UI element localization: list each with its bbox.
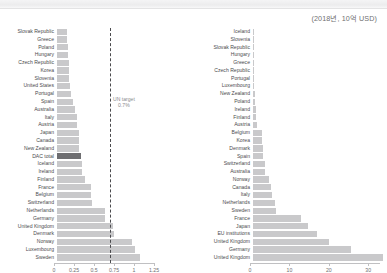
bar <box>253 192 272 198</box>
bar <box>253 137 262 143</box>
bar <box>253 67 254 73</box>
bar-category-label: Australia <box>192 168 253 175</box>
bar-track <box>253 75 387 82</box>
bar-track <box>57 59 193 66</box>
bar <box>253 176 270 182</box>
bar <box>253 231 318 237</box>
bar-row: United Kingdom <box>192 254 387 261</box>
bar-category-label: United Kingdom <box>192 238 253 245</box>
bar-track <box>57 114 193 121</box>
bar-track <box>253 90 387 97</box>
bar-track <box>253 168 387 175</box>
bar-category-label: Germany <box>0 215 57 222</box>
bar-row: Luxembourg <box>0 246 192 253</box>
bar-track <box>253 137 387 144</box>
bar-track <box>57 207 193 214</box>
bar <box>57 254 140 260</box>
bar <box>57 67 69 73</box>
bar-track <box>57 67 193 74</box>
bar-track <box>253 129 387 136</box>
x-tick-label: 0.5 <box>90 267 97 273</box>
bar-category-label: United States <box>0 82 57 89</box>
bar-track <box>57 176 193 183</box>
bar <box>57 176 86 182</box>
bar-category-label: Slovak Republic <box>0 28 57 35</box>
bar <box>57 52 68 58</box>
bar-category-label: New Zealand <box>0 145 57 152</box>
bar-track <box>57 82 193 89</box>
bar <box>57 200 92 206</box>
bar-category-label: Spain <box>0 98 57 105</box>
bar-track <box>253 199 387 206</box>
bar-row: Denmark <box>192 145 387 152</box>
bar-category-label: Austria <box>192 121 253 128</box>
bar-category-label: Sweden <box>192 207 253 214</box>
bar-row: Japan <box>192 223 387 230</box>
bar-row: Hungary <box>192 51 387 58</box>
bar-row: Belgium <box>0 191 192 198</box>
bar-category-label: Iceland <box>0 160 57 167</box>
bar-row: Italy <box>0 114 192 121</box>
bar-row: Slovak Republic <box>0 28 192 35</box>
bar-row: Germany <box>192 246 387 253</box>
bar-category-label: Finland <box>192 114 253 121</box>
bar <box>57 29 67 35</box>
bar-category-label: Iceland <box>192 28 253 35</box>
bar-row: Korea <box>0 67 192 74</box>
bar <box>253 200 275 206</box>
bar <box>253 223 309 229</box>
bar-track <box>253 246 387 253</box>
bar-category-label: Norway <box>0 238 57 245</box>
x-tick <box>368 263 369 266</box>
bar-category-label: France <box>0 184 57 191</box>
bar-track <box>253 106 387 113</box>
x-tick-label: 1 <box>133 267 136 273</box>
bar-category-label: Denmark <box>0 230 57 237</box>
x-tick-label: 0 <box>249 267 252 273</box>
bar-track <box>57 160 193 167</box>
bar-row: Germany <box>0 215 192 222</box>
bar-track <box>253 254 387 261</box>
bar <box>253 161 265 167</box>
bar-row: New Zealand <box>0 145 192 152</box>
bar-track <box>57 137 193 144</box>
bar-category-label: France <box>192 215 253 222</box>
bar-row: Austria <box>0 121 192 128</box>
bar-track <box>253 67 387 74</box>
bar-row: Australia <box>192 168 387 175</box>
bar <box>253 153 263 159</box>
bar-row: Norway <box>192 176 387 183</box>
bar-track <box>253 153 387 160</box>
bar-row: Finland <box>192 114 387 121</box>
un-target-annotation: UN target 0.7% <box>113 96 135 108</box>
bar-row: Poland <box>0 44 192 51</box>
bar-category-label: Ireland <box>192 106 253 113</box>
bar-rows-left: Slovak RepublicGreecePolandHungaryCzech … <box>0 28 192 261</box>
bar <box>57 231 115 237</box>
bar-track <box>57 51 193 58</box>
bar <box>57 208 106 214</box>
bar-row: Slovenia <box>0 75 192 82</box>
bar-row: Korea <box>192 137 387 144</box>
bar-category-label: Hungary <box>192 51 253 58</box>
bar-row: Italy <box>192 191 387 198</box>
bar-category-label: Slovenia <box>192 36 253 43</box>
bar-category-label: New Zealand <box>192 90 253 97</box>
bar-track <box>57 238 193 245</box>
bar-category-label: Canada <box>0 137 57 144</box>
bar <box>253 99 256 105</box>
bar-row: Finland <box>0 176 192 183</box>
bar-row: Greece <box>192 59 387 66</box>
bar-row: Netherlands <box>192 199 387 206</box>
bar-track <box>57 36 193 43</box>
x-tick-label: 0.25 <box>69 267 79 273</box>
bar <box>253 169 265 175</box>
bar-track <box>253 160 387 167</box>
bar-category-label: Luxembourg <box>0 246 57 253</box>
bar <box>57 239 132 245</box>
x-tick-label: 0.75 <box>109 267 119 273</box>
bar-row: United Kingdom <box>0 223 192 230</box>
bar-category-label: Germany <box>192 246 253 253</box>
bar-category-label: Portugal <box>0 90 57 97</box>
bar-track <box>57 230 193 237</box>
